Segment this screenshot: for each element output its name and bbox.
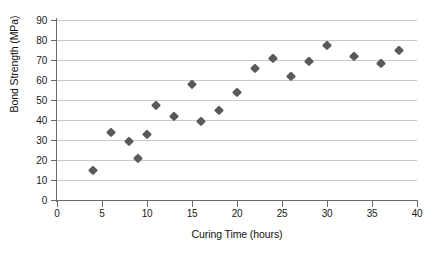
x-tick-label-30: 30: [322, 208, 333, 219]
y-tick-label-40: 40: [36, 115, 47, 126]
y-tick-label-0: 0: [42, 195, 47, 206]
data-point: [304, 56, 313, 65]
data-point: [196, 116, 205, 125]
x-tick-label-0: 0: [54, 208, 59, 219]
data-point: [322, 40, 331, 49]
y-tick-label-20: 20: [36, 155, 47, 166]
x-tick-label-40: 40: [412, 208, 423, 219]
x-axis-title: Curing Time (hours): [57, 228, 417, 240]
x-tick-35: [372, 201, 373, 207]
data-point: [169, 111, 178, 120]
data-point: [376, 58, 385, 67]
x-tick-label-35: 35: [367, 208, 378, 219]
plot-area: [57, 20, 417, 200]
data-point: [106, 127, 115, 136]
y-tick-label-90: 90: [36, 15, 47, 26]
data-point: [133, 153, 142, 162]
x-tick-20: [237, 201, 238, 207]
y-tick-label-60: 60: [36, 75, 47, 86]
data-point: [268, 53, 277, 62]
data-point: [349, 51, 358, 60]
data-point: [151, 100, 160, 109]
data-point: [142, 129, 151, 138]
data-point: [214, 105, 223, 114]
x-tick-label-15: 15: [187, 208, 198, 219]
data-point: [232, 87, 241, 96]
data-point: [394, 45, 403, 54]
data-point: [88, 165, 97, 174]
y-axis-title: Bond Strength (MPa): [8, 0, 20, 134]
x-tick-label-25: 25: [277, 208, 288, 219]
data-point: [250, 63, 259, 72]
x-tick-40: [417, 201, 418, 207]
scatter-chart-figure: 0102030405060708090 0510152025303540 Cur…: [0, 0, 440, 254]
x-tick-5: [102, 201, 103, 207]
y-tick-label-30: 30: [36, 135, 47, 146]
x-tick-25: [282, 201, 283, 207]
x-tick-label-20: 20: [232, 208, 243, 219]
x-tick-label-10: 10: [142, 208, 153, 219]
x-tick-label-5: 5: [99, 208, 104, 219]
data-point: [124, 136, 133, 145]
data-point: [286, 71, 295, 80]
x-tick-10: [147, 201, 148, 207]
x-tick-0: [57, 201, 58, 207]
data-point: [187, 79, 196, 88]
y-tick-label-80: 80: [36, 35, 47, 46]
y-tick-label-70: 70: [36, 55, 47, 66]
y-tick-label-10: 10: [36, 175, 47, 186]
x-tick-30: [327, 201, 328, 207]
y-tick-label-50: 50: [36, 95, 47, 106]
x-tick-15: [192, 201, 193, 207]
